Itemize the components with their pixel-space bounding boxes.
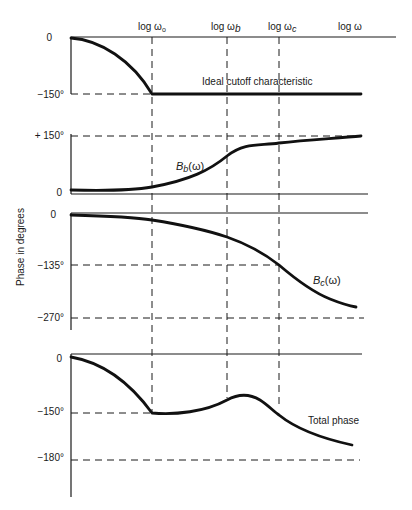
p2-tick-p150: + 150°: [35, 130, 64, 141]
x-label-log-omega: log ω: [338, 21, 362, 32]
p3-tick-m270: −270°: [37, 312, 64, 323]
panel-ideal-cutoff: 0 −150° Ideal cutoff characteristic: [37, 32, 396, 100]
p4-curve: [71, 357, 352, 445]
p3-tick-m135: −135°: [37, 260, 64, 271]
p3-curve: [71, 215, 356, 307]
p4-tick-m150: −150°: [37, 406, 64, 417]
p4-tick-m180: −180°: [37, 452, 64, 463]
x-label-log-omegab: log ωb: [211, 21, 241, 34]
p4-tick-0: 0: [56, 353, 62, 364]
panel-total: 0 −150° −180° Total phase: [37, 353, 362, 497]
p4-curve-label: Total phase: [308, 415, 360, 426]
p3-curve-label: Bc(ω): [313, 274, 341, 288]
p2-curve: [71, 136, 361, 190]
p1-curve-label: Ideal cutoff characteristic: [202, 76, 312, 87]
panel-Bc: 0 −135° −270° Bc(ω): [37, 209, 368, 330]
panel-Bb: + 150° 0 Bb(ω): [35, 130, 368, 198]
x-label-log-omegac: log ωc: [268, 21, 297, 34]
y-axis-label: Phase in degrees: [15, 208, 26, 286]
p1-tick-0: 0: [46, 32, 52, 43]
x-label-log-omega0: log ωo: [138, 21, 166, 33]
p2-tick-0: 0: [56, 187, 62, 198]
p2-curve-label: Bb(ω): [176, 160, 204, 174]
p1-tick-m150: −150°: [37, 89, 64, 100]
p3-tick-0: 0: [50, 209, 56, 220]
phase-diagram: log ωo log ωb log ωc log ω Phase in degr…: [0, 0, 412, 510]
